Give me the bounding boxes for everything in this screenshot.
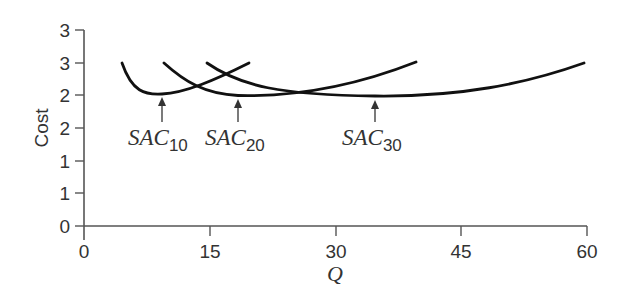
x-axis-title: Q xyxy=(327,261,343,286)
y-axis: 3 3 2 2 1 1 0 Cost xyxy=(31,20,84,240)
chart-canvas: 3 3 2 2 1 1 0 Cost 0 15 30 45 60 Q SAC10 xyxy=(0,0,627,303)
series-curves xyxy=(122,62,584,96)
x-tick-label: 15 xyxy=(199,241,220,262)
annotation-sac30: SAC30 xyxy=(342,100,402,155)
sac30-curve xyxy=(207,63,584,96)
annotation-label: SAC30 xyxy=(342,125,402,155)
arrow-head-icon xyxy=(234,99,242,108)
annotation-sac20: SAC20 xyxy=(205,99,265,155)
y-axis-title: Cost xyxy=(31,108,52,148)
x-tick-label: 0 xyxy=(79,241,90,262)
y-tick-label: 1 xyxy=(59,183,70,204)
y-tick-label: 2 xyxy=(59,85,70,106)
arrow-head-icon xyxy=(371,100,379,109)
y-tick-label: 2 xyxy=(59,118,70,139)
annotation-label: SAC20 xyxy=(205,125,265,155)
x-axis: 0 15 30 45 60 Q xyxy=(79,226,598,286)
y-tick-label: 0 xyxy=(59,216,70,237)
annotation-sac10: SAC10 xyxy=(128,97,188,155)
x-tick-label: 45 xyxy=(450,241,471,262)
x-tick-label: 30 xyxy=(325,241,346,262)
annotation-label: SAC10 xyxy=(128,125,188,155)
y-tick-label: 1 xyxy=(59,151,70,172)
y-tick-label: 3 xyxy=(59,20,70,41)
x-tick-label: 60 xyxy=(576,241,597,262)
y-tick-label: 3 xyxy=(59,53,70,74)
arrow-head-icon xyxy=(158,97,166,106)
